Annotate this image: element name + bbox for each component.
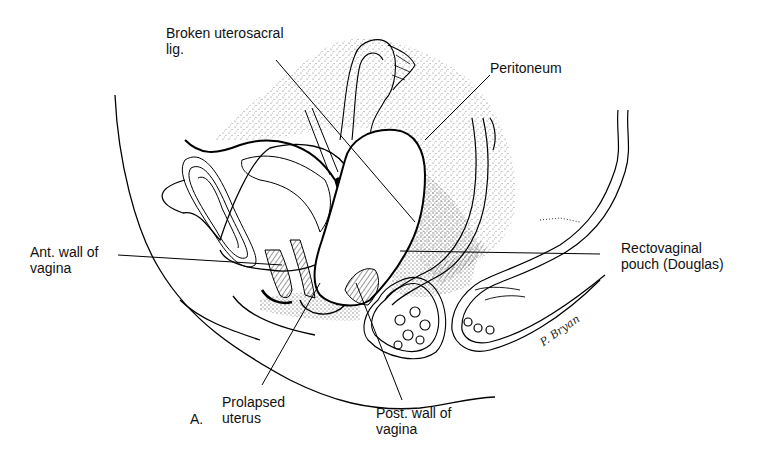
anatomical-illustration	[0, 0, 776, 458]
label-ant-wall-of-vagina: Ant. wall of vagina	[30, 244, 98, 276]
label-prolapsed-uterus: Prolapsed uterus	[222, 394, 285, 426]
label-broken-uterosacral-lig: Broken uterosacral lig.	[166, 25, 284, 57]
label-rectovaginal-pouch: Rectovaginal pouch (Douglas)	[621, 240, 724, 272]
panel-label: A.	[190, 411, 203, 427]
label-post-wall-of-vagina: Post. wall of vagina	[376, 405, 451, 437]
label-peritoneum: Peritoneum	[490, 60, 562, 76]
upper-hatching	[540, 218, 580, 222]
pubic-symphysis	[182, 157, 256, 267]
